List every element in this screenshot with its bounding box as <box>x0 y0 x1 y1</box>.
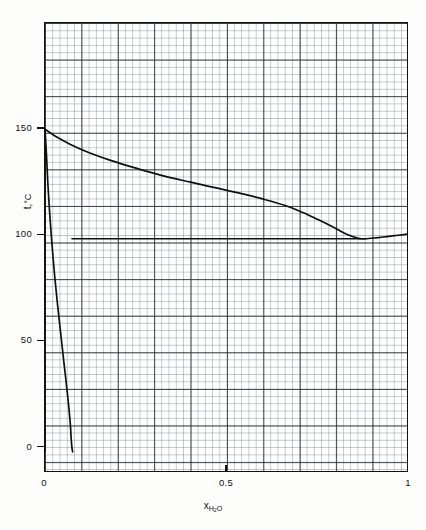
x-tick-label-0: 0 <box>24 477 64 488</box>
x-tick-mark-0.5 <box>225 465 227 472</box>
x-tick-label-1: 1 <box>388 477 426 488</box>
y-tick-label-0: 0 <box>2 441 32 452</box>
y-axis-title-unit: °C <box>23 194 33 204</box>
series-group <box>45 129 408 452</box>
y-axis-title-text: t, <box>22 204 33 210</box>
x-tick-label-0.5: 0.5 <box>206 477 246 488</box>
y-tick-label-150: 150 <box>2 122 32 133</box>
y-tick-mark-50 <box>37 340 44 342</box>
y-tick-mark-0 <box>37 446 44 448</box>
y-axis-title: t,°C <box>22 167 33 237</box>
curve-upper-boundary-dew-curve <box>45 129 408 239</box>
y-tick-label-50: 50 <box>2 334 32 345</box>
curve-lower-boundary-bubble-curve <box>45 129 73 452</box>
y-tick-mark-100 <box>37 234 44 236</box>
figure-canvas: 050100150 t,°C 00.51 xH2O <box>0 0 426 530</box>
plot-area <box>44 22 408 472</box>
x-axis-title-sub-o: O <box>217 504 223 513</box>
x-axis-title: xH2O <box>0 500 426 513</box>
y-tick-mark-150 <box>37 127 44 129</box>
chart-curves <box>45 23 408 472</box>
